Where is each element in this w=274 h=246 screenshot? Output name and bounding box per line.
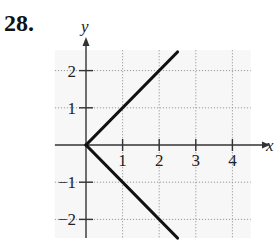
x-tick-label: 2 [155,151,164,170]
y-tick-label: −1 [58,173,76,192]
y-tick-label: −2 [58,210,76,229]
x-axis-label: x [265,136,274,155]
y-axis-arrow-icon [83,37,90,46]
y-tick-label: 1 [68,99,77,118]
x-tick-label: 1 [118,151,127,170]
graph: 1234−2−112xy [0,0,274,246]
x-tick-label: 3 [192,151,201,170]
y-tick-label: 2 [68,62,77,81]
y-axis-label: y [79,17,89,36]
x-tick-label: 4 [228,151,237,170]
